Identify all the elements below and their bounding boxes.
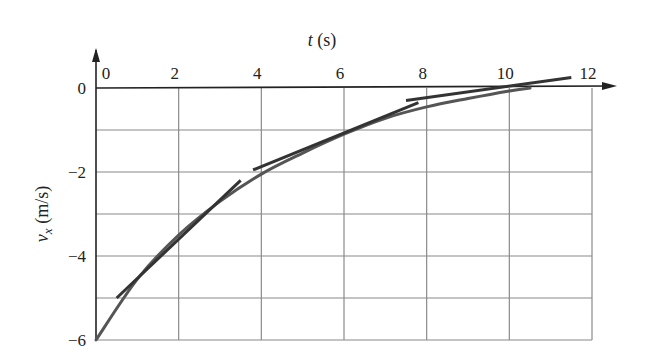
x-axis-arrow-icon (602, 82, 617, 90)
x-tick-label: 8 (418, 64, 427, 83)
x-tick-label: 0 (102, 64, 111, 83)
x-tick-label: 10 (497, 64, 514, 83)
y-tick-label: −2 (68, 163, 86, 182)
y-axis-title: vx (m/s) (32, 186, 55, 242)
y-tick-label: −6 (68, 331, 86, 350)
x-tick-label: 12 (580, 64, 597, 83)
svg-text:t (s): t (s) (308, 30, 337, 51)
x-axis-title: t (s) (308, 30, 337, 51)
grid-lines (96, 88, 592, 340)
x-axis-line (96, 86, 612, 88)
data-series (96, 78, 571, 341)
x-tick-label: 6 (336, 64, 345, 83)
x-tick-label: 2 (170, 64, 179, 83)
y-axis-arrow-icon (92, 48, 100, 62)
svg-text:vx (m/s): vx (m/s) (32, 186, 55, 242)
axes (92, 48, 617, 340)
tick-labels: 0246810120−2−4−6 (68, 64, 597, 350)
y-tick-label: −4 (68, 247, 87, 266)
x-tick-label: 4 (253, 64, 262, 83)
tangent-line (406, 78, 571, 101)
y-tick-label: 0 (78, 79, 87, 98)
velocity-time-chart: 0246810120−2−4−6 t (s) vx (m/s) (0, 0, 645, 363)
tangent-line (253, 103, 418, 170)
